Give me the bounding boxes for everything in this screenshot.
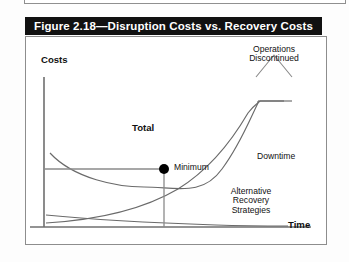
figure-title: Figure 2.18—Disruption Costs vs. Recover… — [34, 20, 313, 32]
figure-container: Figure 2.18—Disruption Costs vs. Recover… — [0, 0, 349, 262]
curve-label-downtime: Downtime — [257, 152, 295, 161]
curve-label-total: Total — [132, 123, 154, 133]
y-axis-label: Costs — [41, 55, 68, 65]
x-axis-label: Time — [288, 220, 310, 230]
curve-alternative-recovery — [46, 215, 288, 226]
operations-discontinued-line-2: Discontinued — [235, 54, 313, 63]
plot-frame: Costs Total Minimum Downtime Alternative… — [25, 36, 327, 245]
page-frame-top-rule — [24, 0, 346, 4]
curve-label-alternative-recovery: Alternative Recovery Strategies — [219, 187, 283, 215]
alternative-recovery-line-3: Strategies — [219, 206, 283, 215]
figure-title-bar: Figure 2.18—Disruption Costs vs. Recover… — [25, 17, 322, 35]
annotation-label-operations-discontinued: Operations Discontinued — [235, 45, 313, 64]
annotation-label-minimum: Minimum — [174, 163, 209, 172]
minimum-marker-dot — [159, 164, 169, 174]
